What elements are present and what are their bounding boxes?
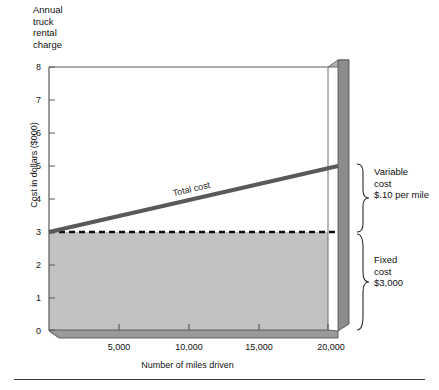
x-tick-label: 10,000 [175, 342, 203, 352]
x-axis-title: Number of miles driven [47, 360, 328, 370]
total-cost-line [49, 166, 338, 232]
y-tick-label: 1 [36, 293, 41, 303]
y-tick-label: 3 [36, 227, 41, 237]
fixed-cost-brace [357, 234, 369, 330]
variable-cost-brace [357, 164, 369, 232]
y-tick-label: 7 [36, 95, 41, 105]
fixed-cost-annotation: Fixed cost $3,000 [374, 254, 439, 289]
y-tick-label: 5 [36, 161, 41, 171]
y-tick-label: 2 [36, 260, 41, 270]
x-tick-labels: 5,000 10,000 15,000 20,000 [108, 342, 345, 352]
x-tick-label: 15,000 [245, 342, 273, 352]
x-tick-label: 20,000 [317, 342, 345, 352]
x-tick-label: 5,000 [108, 342, 131, 352]
y-tick-label: 6 [36, 128, 41, 138]
variable-cost-annotation: Variable cost $.10 per mile [374, 166, 439, 201]
base-bevel [49, 330, 338, 338]
fixed-cost-area [49, 232, 328, 330]
y-tick-labels: 8 7 6 5 4 3 2 1 0 [36, 62, 41, 336]
y-tick-label: 0 [36, 326, 41, 336]
y-tick-label: 4 [36, 194, 41, 204]
footer-rule [14, 379, 425, 380]
slab-face [338, 60, 349, 331]
chart-figure: Annual truck rental charge Cost in dolla… [0, 0, 439, 390]
y-tick-label: 8 [36, 62, 41, 72]
